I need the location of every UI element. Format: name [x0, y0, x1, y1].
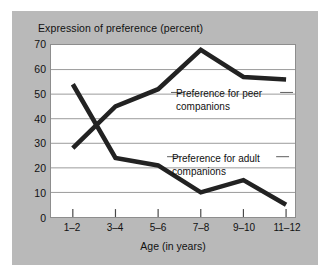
annotation-adult-line1: Preference for adult	[172, 152, 260, 165]
x-tick-label-5-6: 5–6	[150, 222, 167, 233]
y-tick-label-40: 40	[34, 113, 46, 125]
chart-panel: Expression of preference (percent) 70 60…	[12, 11, 318, 265]
y-axis-tick-labels: 70 60 50 40 30 20 10 0	[12, 44, 46, 218]
y-tick-label-30: 30	[34, 137, 46, 149]
y-tick-label-10: 10	[34, 187, 46, 199]
x-tick-label-9-10: 9–10	[233, 222, 255, 233]
annotation-peer-line1: Preference for peer	[176, 87, 262, 100]
y-tick-label-20: 20	[34, 162, 46, 174]
x-axis-title: Age (in years)	[50, 240, 296, 252]
x-axis-ticks	[73, 209, 286, 217]
x-axis-tick-labels: 1–2 3–4 5–6 7–8 9–10 11–12	[50, 222, 296, 238]
x-tick-label-11-12: 11–12	[273, 222, 300, 233]
y-tick-label-0: 0	[40, 212, 46, 224]
x-tick-label-3-4: 3–4	[107, 222, 124, 233]
x-tick-label-1-2: 1–2	[64, 222, 81, 233]
annotation-peer-companions: Preference for peer companions	[176, 87, 262, 113]
y-tick-label-70: 70	[34, 38, 46, 50]
chart-canvas	[51, 45, 295, 217]
x-tick-label-7-8: 7–8	[193, 222, 210, 233]
chart-title: Expression of preference (percent)	[38, 22, 203, 34]
annotation-peer-line2: companions	[176, 100, 262, 113]
y-tick-label-60: 60	[34, 63, 46, 75]
annotation-adult-companions: Preference for adult companions	[172, 152, 260, 178]
y-tick-label-50: 50	[34, 88, 46, 100]
annotation-adult-line2: companions	[172, 165, 260, 178]
plot-area	[50, 44, 296, 218]
